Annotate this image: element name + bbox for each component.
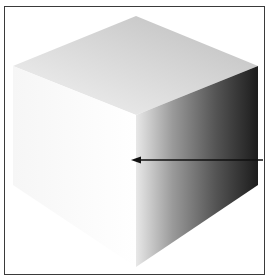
cube-diagram (0, 0, 271, 280)
